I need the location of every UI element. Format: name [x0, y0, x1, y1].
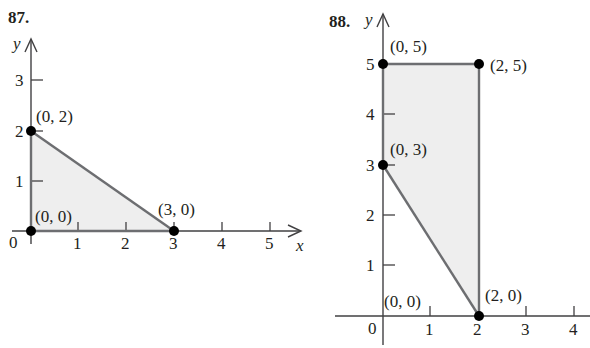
figure-canvas: 87. y x 0 1 2 3 4 5 1 2 [0, 0, 590, 348]
graph-87-xtick: 1 [73, 234, 82, 253]
graph-88: 88. y 0 1 2 3 4 1 2 3 [329, 10, 590, 345]
graph-88-ytick: 5 [366, 55, 375, 74]
graph-87-point-label: (0, 0) [35, 207, 72, 226]
graph-88-ytick: 3 [366, 156, 375, 175]
graph-87-point [26, 126, 36, 136]
graph-87-point [169, 226, 179, 236]
graph-87-number: 87. [8, 8, 29, 27]
graph-87-origin-label: 0 [9, 233, 18, 252]
graph-87: 87. y x 0 1 2 3 4 5 1 2 [8, 8, 304, 255]
graph-88-ytick: 2 [366, 206, 375, 225]
graph-88-point-label: (0, 0) [384, 292, 421, 311]
graph-87-ytick: 1 [15, 172, 24, 191]
graph-87-x-label: x [295, 236, 304, 255]
graph-87-ytick: 2 [15, 122, 24, 141]
graph-87-xtick: 4 [217, 234, 226, 253]
graph-88-ytick: 4 [366, 105, 375, 124]
graph-88-origin-label: 0 [368, 319, 377, 338]
graph-87-xtick: 5 [265, 234, 274, 253]
graph-88-y-label: y [363, 10, 373, 29]
graph-87-point-label: (0, 2) [36, 107, 73, 126]
graph-88-point-label: (0, 3) [390, 140, 427, 159]
graph-87-xtick: 3 [169, 234, 178, 253]
graph-88-xtick: 2 [473, 320, 482, 339]
graph-88-point [474, 59, 484, 69]
graph-88-point [378, 160, 388, 170]
graph-87-ytick: 3 [15, 71, 24, 90]
graph-88-ytick: 1 [366, 256, 375, 275]
graph-88-point-label: (0, 5) [390, 37, 427, 56]
graph-88-xtick: 4 [569, 320, 578, 339]
graph-88-point [474, 311, 484, 321]
graph-87-y-label: y [11, 34, 21, 53]
graph-87-xtick: 2 [121, 234, 130, 253]
graph-87-point [26, 226, 36, 236]
graph-88-number: 88. [329, 12, 350, 31]
graph-87-point-label: (3, 0) [158, 200, 195, 219]
graph-88-xtick: 1 [425, 320, 434, 339]
graph-88-xtick: 3 [521, 320, 530, 339]
graph-88-point [378, 59, 388, 69]
graph-88-point-label: (2, 0) [485, 286, 522, 305]
graph-88-point-label: (2, 5) [490, 56, 527, 75]
graph-88-region [383, 64, 479, 316]
